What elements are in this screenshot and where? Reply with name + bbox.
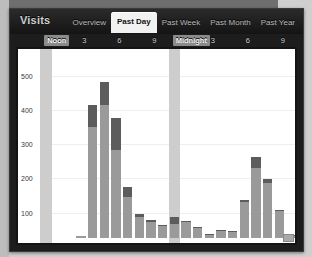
chart-frame: 0100200300400500 <box>16 47 297 245</box>
bar-column[interactable] <box>158 225 167 238</box>
page-title: Visits <box>20 14 50 26</box>
bar-column[interactable] <box>251 157 260 238</box>
x-axis-label-strip: Noon369Midnight369 <box>16 34 297 47</box>
y-axis-tick-label: 200 <box>21 175 33 182</box>
visits-window: Visits OverviewPast DayPast WeekPast Mon… <box>9 8 304 252</box>
bar-column[interactable] <box>170 217 179 238</box>
tab-past-year[interactable]: Past Year <box>256 13 300 33</box>
bar-segment-lower <box>135 217 144 238</box>
tab-past-week[interactable]: Past Week <box>157 13 206 33</box>
y-axis-tick-label: 100 <box>21 209 33 216</box>
bar-segment-upper <box>123 187 132 197</box>
x-axis-tick-label-midnight: Midnight <box>173 35 210 46</box>
bar-column[interactable] <box>240 200 249 238</box>
highlight-band-noon <box>40 49 51 243</box>
y-axis-tick-label: 400 <box>21 106 33 113</box>
bar-segment-upper <box>158 225 167 226</box>
bar-segment-lower <box>170 224 179 238</box>
bar-column[interactable] <box>111 118 120 238</box>
resize-handle-icon[interactable] <box>283 234 294 242</box>
x-axis-tick-label-6: 6 <box>246 36 250 45</box>
bar-segment-lower <box>146 222 155 238</box>
bar-segment-upper <box>193 227 202 228</box>
bar-column[interactable] <box>228 231 237 238</box>
bar-segment-lower <box>111 150 120 238</box>
gridline <box>40 110 295 111</box>
bar-segment-upper <box>111 118 120 150</box>
tab-overview[interactable]: Overview <box>68 13 111 33</box>
y-axis-tick-label: 300 <box>21 141 33 148</box>
backdrop-top-band <box>0 0 278 8</box>
bar-segment-lower <box>158 226 167 238</box>
x-axis-tick-label-noon: Noon <box>44 35 69 46</box>
bar-column[interactable] <box>123 187 132 238</box>
bar-column[interactable] <box>146 220 155 238</box>
bar-segment-upper <box>100 82 109 105</box>
bar-segment-upper <box>135 214 144 217</box>
tab-bar[interactable]: OverviewPast DayPast WeekPast MonthPast … <box>68 12 300 33</box>
bar-segment-upper <box>275 210 284 211</box>
gridline <box>40 76 295 77</box>
y-axis-tick-label: 500 <box>21 72 33 79</box>
bar-segment-upper <box>88 105 97 127</box>
bar-column[interactable] <box>263 179 272 238</box>
bar-segment-lower <box>251 168 260 238</box>
bar-column[interactable] <box>76 236 85 238</box>
bar-column[interactable] <box>181 221 190 238</box>
bar-segment-lower <box>193 228 202 238</box>
x-axis-tick-label-9: 9 <box>152 36 156 45</box>
bar-column[interactable] <box>135 214 144 238</box>
window-titlebar: Visits OverviewPast DayPast WeekPast Mon… <box>10 9 303 34</box>
bar-segment-upper <box>251 157 260 167</box>
highlight-band-midnight <box>169 49 180 243</box>
bar-segment-upper <box>228 231 237 232</box>
bar-segment-lower <box>263 183 272 238</box>
backdrop-left-band <box>0 0 9 257</box>
tab-past-month[interactable]: Past Month <box>205 13 255 33</box>
x-axis-tick-label-3: 3 <box>82 36 86 45</box>
bar-segment-lower <box>88 127 97 238</box>
x-axis-tick-label-6: 6 <box>117 36 121 45</box>
bar-segment-upper <box>181 221 190 222</box>
bar-segment-lower <box>181 222 190 238</box>
bar-column[interactable] <box>216 230 225 238</box>
x-axis-tick-label-3: 3 <box>211 36 215 45</box>
bar-column[interactable] <box>193 227 202 238</box>
bar-segment-upper <box>216 230 225 231</box>
bar-segment-upper <box>240 200 249 202</box>
bar-segment-upper <box>146 220 155 221</box>
bar-segment-lower <box>123 197 132 238</box>
bar-segment-upper <box>263 179 272 183</box>
bar-segment-lower <box>216 231 225 238</box>
bar-segment-lower <box>205 235 214 238</box>
bar-column[interactable] <box>205 234 214 238</box>
bar-column[interactable] <box>100 82 109 238</box>
bar-segment-upper <box>170 217 179 223</box>
gridline <box>40 144 295 145</box>
bar-segment-lower <box>228 232 237 238</box>
tab-past-day[interactable]: Past Day <box>111 12 157 33</box>
bar-chart-plot[interactable]: 0100200300400500 <box>18 49 295 243</box>
bar-segment-lower <box>76 236 85 238</box>
bar-segment-lower <box>240 202 249 238</box>
bar-segment-upper <box>205 234 214 235</box>
x-axis-tick-label-9: 9 <box>281 36 285 45</box>
bar-segment-lower <box>100 105 109 238</box>
bar-column[interactable] <box>88 105 97 238</box>
